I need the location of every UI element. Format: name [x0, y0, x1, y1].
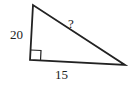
hypotenuse-label: ? — [68, 16, 74, 31]
right-triangle — [30, 5, 125, 65]
bottom-leg-label: 15 — [55, 67, 68, 82]
left-leg-label: 20 — [10, 27, 23, 42]
right-angle-marker — [31, 50, 42, 61]
triangle-diagram: 20 ? 15 — [0, 0, 129, 86]
